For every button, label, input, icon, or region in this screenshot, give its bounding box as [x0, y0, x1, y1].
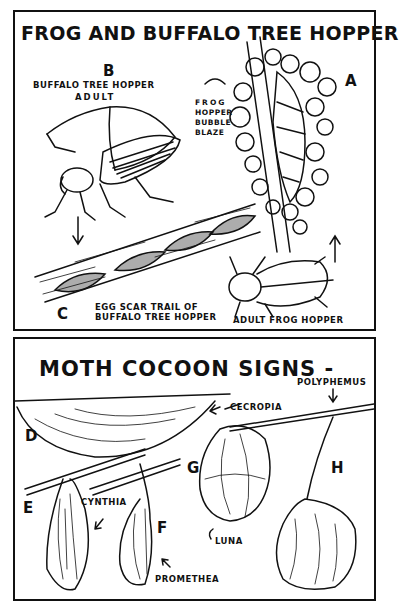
label-buffalo-adult-line2: ADULT	[75, 92, 115, 102]
promethea-cocoon-drawing	[120, 464, 152, 585]
label-egg-scar-line2: BUFFALO TREE HOPPER	[95, 312, 216, 322]
label-buffalo-adult-line1: BUFFALO TREE HOPPER	[33, 80, 154, 90]
polyphemus-cocoon-drawing	[277, 499, 356, 589]
twig-f	[90, 459, 180, 495]
polyphemus-stalk	[307, 417, 333, 499]
label-f: F	[157, 519, 168, 537]
arrow-cecropia	[210, 405, 220, 414]
arrow-bubble-label	[205, 79, 225, 84]
top-panel-title: FROG AND BUFFALO TREE HOPPER	[21, 22, 399, 44]
label-bubble-line2: HOPPER	[195, 108, 233, 118]
label-d: D	[25, 427, 38, 445]
label-b: B	[103, 62, 115, 80]
arrow-luna	[209, 529, 213, 539]
label-e: E	[23, 499, 34, 517]
arrow-promethea	[162, 559, 170, 567]
cynthia-cocoon-drawing	[47, 479, 89, 590]
frog-buffalo-panel: FROG AND BUFFALO TREE HOPPER B BUFFALO T…	[13, 10, 376, 331]
label-cynthia: CYNTHIA	[81, 497, 127, 507]
label-bubble-blaze: FROG HOPPER BUBBLE BLAZE	[195, 98, 233, 138]
arrow-b-to-c	[73, 217, 83, 244]
label-bubble-line3: BUBBLE	[195, 118, 233, 128]
label-bubble-line1: FROG	[195, 98, 233, 108]
adult-frog-hopper-drawing	[229, 257, 333, 317]
cecropia-cocoon-drawing	[15, 394, 240, 457]
egg-scar-twig-drawing	[35, 204, 260, 302]
luna-cocoon-drawing	[200, 426, 270, 521]
label-promethea: PROMETHEA	[155, 574, 219, 584]
label-bubble-line4: BLAZE	[195, 128, 233, 138]
label-h: H	[331, 459, 344, 477]
label-a: A	[345, 72, 357, 90]
arrow-cynthia	[95, 519, 103, 529]
label-g: G	[187, 459, 200, 477]
label-egg-scar-line1: EGG SCAR TRAIL OF	[95, 302, 198, 312]
label-adult-frog-hopper: ADULT FROG HOPPER	[233, 315, 343, 325]
label-c: C	[57, 305, 69, 323]
frog-buffalo-illustration	[15, 12, 374, 329]
arrow-polyphemus	[329, 389, 337, 402]
label-luna: LUNA	[215, 536, 243, 546]
label-polyphemus: POLYPHEMUS	[297, 377, 366, 387]
moth-cocoon-panel: MOTH COCOON SIGNS - CECROPIA POLYPHEMUS …	[13, 337, 376, 601]
arrow-up-to-blaze	[330, 236, 340, 262]
label-cecropia: CECROPIA	[230, 402, 282, 412]
bottom-panel-title: MOTH COCOON SIGNS -	[39, 357, 334, 381]
buffalo-tree-hopper-drawing	[45, 107, 180, 220]
